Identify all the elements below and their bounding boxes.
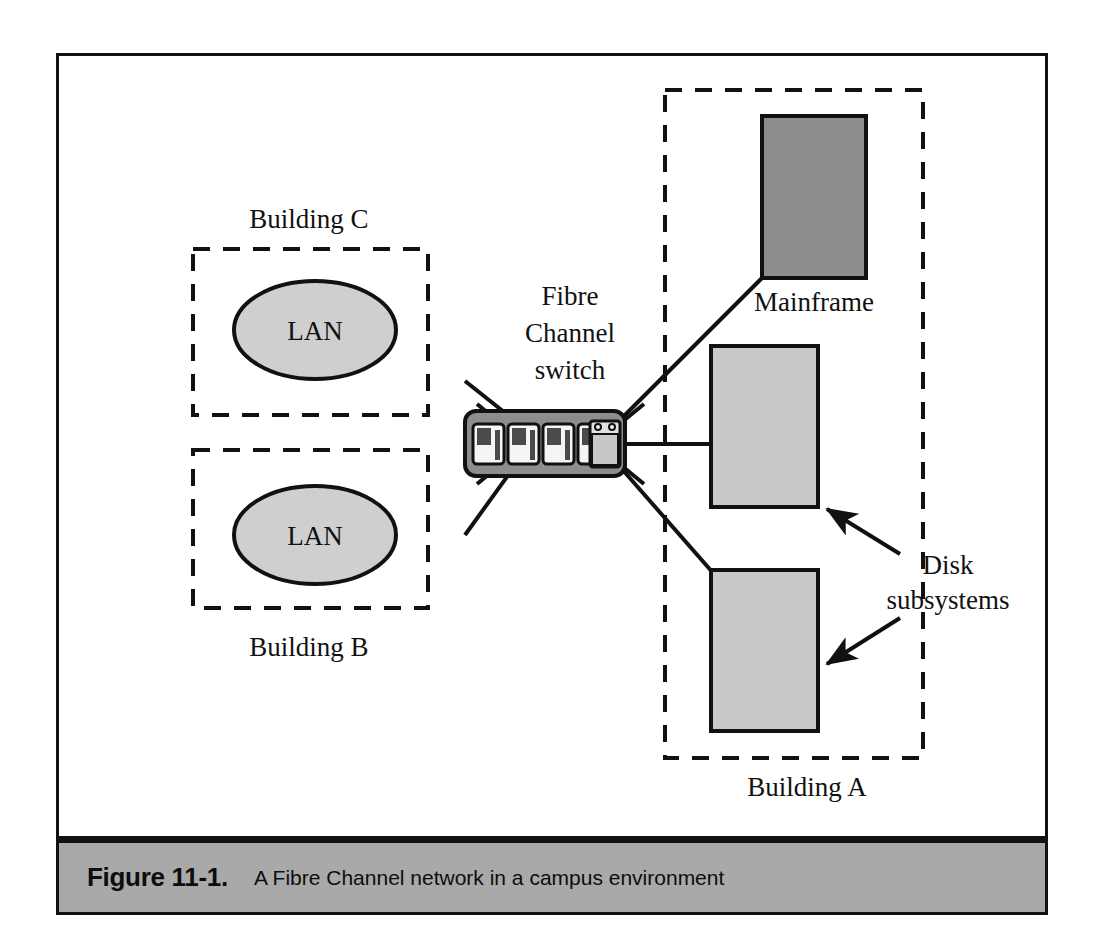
building-c-label: Building C [249,204,368,234]
building-b-label: Building B [249,632,368,662]
switch-port-1[interactable] [473,424,504,464]
figure-caption-text: A Fibre Channel network in a campus envi… [254,866,724,890]
switch-control-module[interactable] [590,421,620,467]
mainframe-node[interactable] [762,116,866,278]
diagram-canvas: LAN LAN Mainframe [59,56,1045,838]
figure-frame: LAN LAN Mainframe [56,53,1048,915]
figure-number: Figure 11-1. [87,862,228,893]
disk-subsystem-middle[interactable] [711,346,818,507]
lan-node-top-label: LAN [287,316,343,346]
fibre-channel-switch[interactable] [465,404,644,484]
switch-label-line3: switch [535,355,606,385]
disk-subsystem-bottom[interactable] [711,570,818,731]
building-a-label: Building A [747,772,867,802]
switch-label-line2: Channel [525,318,615,348]
switch-port-3[interactable] [543,424,574,464]
lan-node-bottom[interactable]: LAN [234,486,396,584]
network-diagram: LAN LAN Mainframe [59,56,1045,838]
disk-subsystems-label-line2: subsystems [886,585,1009,615]
figure-caption-bar: Figure 11-1. A Fibre Channel network in … [59,836,1045,912]
switch-port-2[interactable] [508,424,539,464]
switch-led-2 [609,424,615,430]
figure-page: LAN LAN Mainframe [0,0,1102,945]
disk-subsystems-label-line1: Disk [922,550,974,580]
lan-node-top[interactable]: LAN [234,281,396,379]
mainframe-label: Mainframe [754,287,874,317]
lan-node-bottom-label: LAN [287,521,343,551]
switch-led-1 [595,424,601,430]
switch-label-line1: Fibre [542,281,599,311]
